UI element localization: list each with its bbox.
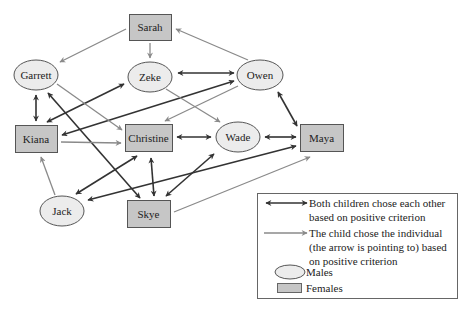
node-skye: Skye	[128, 201, 171, 228]
node-label: Zeke	[139, 71, 161, 83]
edge-christine-jack-mutual-arrow	[76, 156, 137, 194]
legend-female-rect-icon	[278, 284, 302, 293]
legend: Both children chose each other based on …	[258, 194, 458, 299]
node-maya: Maya	[301, 125, 344, 152]
edge-jack-kiana-oneway-arrow	[41, 157, 55, 195]
node-wade: Wade	[216, 122, 260, 152]
edge-garrett-christine-oneway-arrow	[57, 84, 122, 130]
node-kiana: Kiana	[16, 126, 58, 153]
edges-layer	[36, 29, 310, 212]
node-label: Owen	[247, 69, 274, 81]
edge-owen-sarah-oneway-arrow	[176, 29, 248, 60]
node-label: Garrett	[20, 69, 51, 81]
node-christine: Christine	[126, 125, 173, 152]
node-label: Christine	[128, 132, 168, 144]
edge-owen-maya-mutual-arrow	[278, 92, 297, 126]
node-label: Kiana	[23, 133, 49, 145]
node-owen: Owen	[237, 60, 283, 90]
legend-mutual-line1: Both children chose each other	[309, 197, 446, 209]
edge-christine-skye-mutual-arrow	[151, 158, 154, 196]
node-label: Skye	[138, 208, 160, 220]
legend-mutual-line2: based on positive criterion	[309, 211, 426, 223]
node-sarah: Sarah	[130, 15, 172, 41]
node-label: Wade	[226, 131, 251, 143]
legend-oneway-line2: (the arrow is pointing to) based	[309, 241, 447, 254]
edge-jack-maya-mutual-arrow	[88, 146, 296, 200]
legend-males-label: Males	[306, 266, 333, 278]
node-label: Maya	[309, 132, 334, 144]
edge-sarah-garrett-oneway-arrow	[60, 29, 126, 62]
node-label: Jack	[52, 205, 72, 217]
legend-females-label: Females	[306, 282, 343, 294]
node-zeke: Zeke	[128, 62, 172, 92]
edge-kiana-christine-oneway-arrow	[61, 142, 121, 143]
legend-oneway-line1: The child chose the individual	[309, 227, 442, 239]
sociogram-diagram: SarahGarrettZekeOwenKianaChristineWadeMa…	[0, 0, 468, 313]
node-garrett: Garrett	[14, 60, 58, 90]
node-label: Sarah	[137, 21, 163, 33]
edge-kiana-zeke-mutual-arrow	[47, 84, 124, 122]
node-jack: Jack	[40, 196, 84, 226]
legend-male-ellipse-icon	[275, 265, 305, 279]
edge-wade-skye-mutual-arrow	[166, 154, 214, 196]
